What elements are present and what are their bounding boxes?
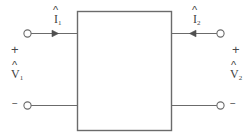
i2-current-arrow bbox=[190, 30, 197, 37]
i2-label: I2 bbox=[193, 13, 201, 27]
i1-label: I1 bbox=[54, 13, 62, 27]
v1-label: V1 bbox=[11, 68, 23, 82]
v2-subscript: 2 bbox=[239, 74, 243, 82]
v2-symbol: V bbox=[230, 67, 239, 81]
i1-current-arrow bbox=[52, 30, 59, 37]
port1-plus-sign: + bbox=[11, 43, 19, 56]
port2-bottom-terminal bbox=[217, 102, 224, 109]
port2-top-terminal bbox=[217, 30, 224, 37]
port1-minus-sign: − bbox=[12, 99, 18, 109]
v1-subscript: 1 bbox=[20, 74, 24, 82]
port2-plus-sign: + bbox=[232, 43, 240, 56]
v1-symbol: V bbox=[11, 67, 20, 81]
circuit-schematic-svg bbox=[0, 0, 250, 140]
i2-subscript: 2 bbox=[197, 19, 201, 27]
v2-label: V2 bbox=[230, 68, 242, 82]
network-box bbox=[78, 12, 172, 131]
port1-bottom-terminal bbox=[24, 102, 31, 109]
port1-top-terminal bbox=[24, 30, 31, 37]
port2-minus-sign: − bbox=[230, 99, 236, 109]
two-port-network-diagram: ^ I1 ^ I2 + ^ V1 − + ^ V2 − bbox=[0, 0, 250, 140]
i1-subscript: 1 bbox=[58, 19, 62, 27]
